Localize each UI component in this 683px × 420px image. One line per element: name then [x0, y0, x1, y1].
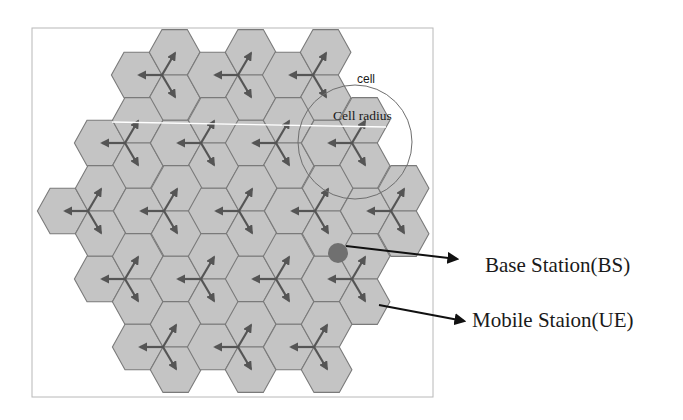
base-station-label: Base Station(BS) — [485, 253, 630, 277]
cellular-network-diagram: cell Cell radius Base Station(BS) Mobile… — [0, 0, 683, 420]
mobile-station-label: Mobile Staion(UE) — [472, 308, 634, 332]
cell-radius-label: Cell radius — [333, 108, 392, 123]
base-station-dot — [328, 243, 348, 263]
cell-label: cell — [357, 72, 375, 86]
mobile-station-pointer-arrow — [379, 305, 464, 321]
